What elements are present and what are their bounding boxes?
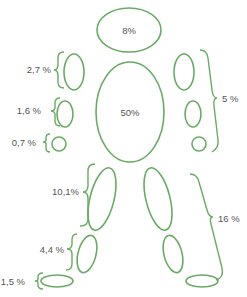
upper-arm-label: 2,7 % [27,64,52,75]
trunk-label: 50% [120,107,140,118]
arm-total-brace [200,50,218,152]
head-label: 8% [122,25,136,36]
right-upper-arm-segment [174,54,194,90]
thigh-label: 10,1% [52,186,79,197]
right-thigh-segment [139,165,178,233]
right-shank-segment [160,233,187,274]
left-shank-segment [74,233,101,274]
arm-total-label: 5 % [222,93,239,104]
forearm-label: 1,6 % [17,105,42,116]
leg-total-label: 16 % [218,213,240,224]
left-foot-segment [41,275,73,287]
hand-label: 0,7 % [12,137,37,148]
right-hand-segment [192,137,206,151]
hand-brace [43,134,50,152]
leg-total-brace [190,174,222,280]
upper-arm-brace [54,52,64,88]
right-forearm-segment [185,101,201,127]
thigh-brace [80,164,95,226]
shank-brace [66,234,77,270]
foot-label: 1,5 % [1,276,26,287]
right-foot-segment [186,275,218,287]
shank-label: 4,4 % [40,244,65,255]
left-upper-arm-segment [64,54,84,90]
left-forearm-segment [57,101,73,127]
left-hand-segment [52,137,66,151]
body-mass-diagram: 8% 50% 2,7 % 1,6 % 0,7 % 10,1% 4,4 % 1,5… [0,0,247,297]
